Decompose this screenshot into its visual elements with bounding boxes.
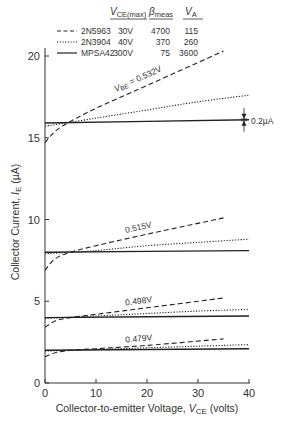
y-tick-label: 5 xyxy=(34,295,40,307)
vbe-label: 0.479V xyxy=(125,332,153,344)
curves xyxy=(45,51,249,357)
y-axis-title: Collector Current, IE (µA) xyxy=(9,164,23,280)
legend-vce-max: 40V xyxy=(118,37,133,47)
legend-row-mpsa42: MPSA42300V753600 xyxy=(57,48,198,58)
x-tick-label: 20 xyxy=(141,387,153,399)
legend-va: 260 xyxy=(184,37,198,47)
y-tick-label: 10 xyxy=(28,214,40,226)
curve-mpsa42 xyxy=(45,316,249,318)
legend-beta: 75 xyxy=(161,48,171,58)
x-tick-label: 0 xyxy=(42,387,48,399)
curve-mpsa42 xyxy=(45,349,249,351)
legend-header: βmeas xyxy=(148,6,173,19)
legend-vce-max: 30V xyxy=(118,26,133,36)
curve-mpsa42 xyxy=(45,251,249,253)
arrow-up-icon xyxy=(242,121,247,126)
legend-device-name: MPSA42 xyxy=(81,48,115,58)
legend-header: VCE(max) xyxy=(110,6,147,19)
x-tick-label: 10 xyxy=(90,387,102,399)
legend-row-2n5963: 2N596330V4700115 xyxy=(57,26,198,36)
y-tick-label: 0 xyxy=(34,377,40,389)
chart: 01020304005101520Collector-to-emitter Vo… xyxy=(0,0,294,423)
curve-group-0 xyxy=(45,51,249,143)
x-tick-label: 40 xyxy=(243,387,255,399)
legend-device-name: 2N5963 xyxy=(81,26,111,36)
legend-va: 3600 xyxy=(179,48,198,58)
legend-header: VA xyxy=(185,6,197,19)
y-tick-label: 15 xyxy=(28,132,40,144)
legend-table: VCE(max)βmeasVA2N596330V47001152N390440V… xyxy=(57,6,203,58)
curve-labels: VBE = 0.532V0.515V0.498V0.479V xyxy=(112,64,163,345)
legend-beta: 370 xyxy=(156,37,170,47)
legend-vce-max: 300V xyxy=(113,48,133,58)
chart-canvas: 01020304005101520Collector-to-emitter Vo… xyxy=(0,0,294,423)
x-axis-title: Collector-to-emitter Voltage, VCE (volts… xyxy=(56,402,239,416)
annotation-text: 0.2µA xyxy=(251,116,274,126)
vbe-label: 0.515V xyxy=(124,220,153,235)
legend-row-2n3904: 2N390440V370260 xyxy=(57,37,198,47)
legend-device-name: 2N3904 xyxy=(81,37,111,47)
legend-va: 115 xyxy=(184,26,198,36)
x-tick-label: 30 xyxy=(192,387,204,399)
vbe-label: 0.498V xyxy=(125,294,153,307)
y-tick-label: 20 xyxy=(28,50,40,62)
legend-beta: 4700 xyxy=(151,26,170,36)
arrow-down-icon xyxy=(242,114,247,119)
curve-2n5963 xyxy=(45,51,224,143)
